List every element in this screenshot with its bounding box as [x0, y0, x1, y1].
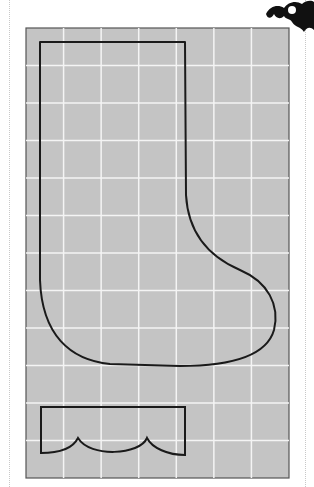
holly-ornament-icon: [0, 0, 314, 487]
